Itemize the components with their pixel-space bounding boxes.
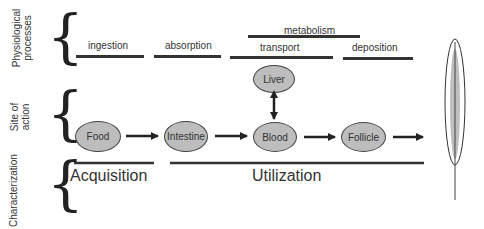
- diagram-arrows: [0, 0, 484, 229]
- label-acquisition: Acquisition: [70, 167, 147, 185]
- label-utilization: Utilization: [252, 167, 321, 185]
- feather-icon: [445, 39, 465, 200]
